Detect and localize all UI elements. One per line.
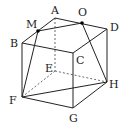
vertex-label-H: H: [109, 78, 119, 91]
vertex-label-E: E: [45, 62, 53, 75]
edge-FG: [22, 97, 73, 108]
vertex-label-M: M: [26, 18, 37, 31]
edge-MO: [38, 23, 82, 31]
edge-BC: [22, 43, 73, 53]
vertex-label-C: C: [76, 54, 84, 67]
vertex-label-O: O: [78, 6, 87, 19]
vertex-label-D: D: [110, 21, 119, 34]
edge-FH: [22, 82, 107, 97]
hidden-edge-EH: [55, 71, 107, 82]
edge-GH: [73, 82, 107, 108]
vertex-label-B: B: [10, 37, 18, 50]
vertex-label-A: A: [50, 4, 60, 17]
point-O: [80, 21, 84, 25]
vertex-label-F: F: [9, 94, 17, 107]
cube-diagram: AODMBCEHFG: [0, 0, 130, 129]
vertex-label-G: G: [69, 112, 78, 125]
